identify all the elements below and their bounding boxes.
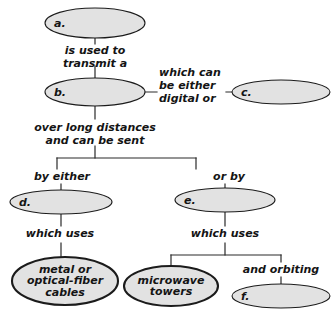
concept-map-diagram: a.b.c.d.e.metal or optical-fiber cablesm…: [0, 0, 334, 309]
node-label-e: e.: [184, 194, 196, 207]
node-label-b: b.: [54, 86, 66, 99]
edge-label-which-uses-left: which uses: [26, 227, 94, 240]
node-label-microwave: microwave towers: [124, 275, 218, 298]
edge-label-which-uses-right: which uses: [191, 227, 259, 240]
node-label-a: a.: [54, 17, 66, 30]
edge-label-by-either: by either: [34, 170, 90, 183]
edge-label-is-used-to-transmit-a: is used to transmit a: [63, 44, 127, 70]
node-label-c: c.: [241, 86, 252, 99]
node-label-f: f.: [241, 290, 249, 303]
node-label-d: d.: [19, 196, 31, 209]
edge-label-and-orbiting: and orbiting: [243, 263, 319, 276]
edge-label-which-can-be-either-digital-or: which can be either digital or: [159, 66, 221, 105]
edge-label-or-by: or by: [213, 170, 245, 183]
node-label-cables: metal or optical-fiber cables: [12, 264, 118, 299]
edge-label-over-long-distances-can-be-sent: over long distances and can be sent: [34, 121, 156, 147]
